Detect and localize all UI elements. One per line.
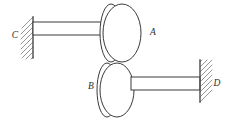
- left-wall-support: [21, 17, 33, 59]
- label-wall-d: D: [213, 78, 221, 88]
- upper-disc-front-face: [103, 4, 141, 62]
- label-disc-a: A: [149, 27, 156, 37]
- lower-disc-B: [97, 63, 134, 117]
- lower-disc-front-face: [100, 63, 134, 117]
- lower-shaft-bar: [131, 77, 200, 90]
- left-wall-hatching: [21, 17, 33, 59]
- right-wall-support: [200, 60, 212, 102]
- upper-disc-A: [100, 4, 141, 62]
- upper-shaft-bar: [33, 22, 109, 35]
- label-disc-b: B: [88, 81, 94, 91]
- diagram-canvas: A B C D: [0, 0, 233, 125]
- right-wall-hatching: [200, 60, 212, 102]
- label-wall-c: C: [12, 30, 19, 40]
- friction-disc-mechanism-svg: A B C D: [0, 0, 233, 125]
